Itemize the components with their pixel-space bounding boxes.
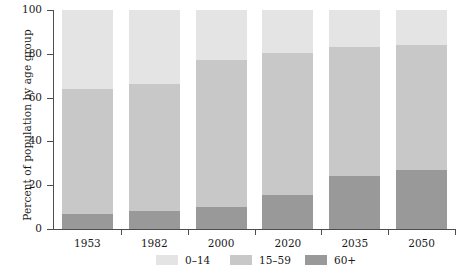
bar-segment-2020-60+ bbox=[262, 195, 313, 229]
bar-segment-1953-0-14 bbox=[62, 10, 113, 89]
bar-segment-1982-15-59 bbox=[129, 84, 180, 211]
x-tick-mark bbox=[188, 230, 189, 235]
bar-2035 bbox=[329, 10, 380, 229]
y-tick-mark bbox=[47, 141, 53, 142]
bar-segment-2035-15-59 bbox=[329, 47, 380, 176]
x-tick-mark bbox=[121, 230, 122, 235]
y-tick-mark bbox=[47, 10, 53, 11]
x-tick-label-1982: 1982 bbox=[124, 238, 184, 249]
y-tick-mark bbox=[47, 229, 53, 230]
legend-item-15-59: 15–59 bbox=[230, 253, 291, 267]
legend-label: 0–14 bbox=[185, 255, 210, 266]
legend-item-0-14: 0–14 bbox=[156, 253, 210, 267]
legend-item-60+: 60+ bbox=[305, 253, 356, 267]
y-tick-label: 0 bbox=[2, 223, 42, 234]
bar-segment-2000-15-59 bbox=[196, 60, 247, 207]
y-tick-mark bbox=[47, 185, 53, 186]
y-tick-label: 80 bbox=[2, 48, 42, 59]
bar-1953 bbox=[62, 10, 113, 229]
bar-2020 bbox=[262, 10, 313, 229]
legend-label: 60+ bbox=[334, 255, 356, 266]
y-tick-mark bbox=[47, 98, 53, 99]
y-tick-label: 40 bbox=[2, 135, 42, 146]
bar-segment-2050-60+ bbox=[396, 170, 447, 229]
chart-legend: 0–1415–5960+ bbox=[0, 253, 460, 267]
bar-1982 bbox=[129, 10, 180, 229]
bar-segment-2035-60+ bbox=[329, 176, 380, 229]
bar-segment-1953-15-59 bbox=[62, 89, 113, 214]
chart-screenshot: Percent of population by age group 02040… bbox=[0, 0, 460, 272]
bar-segment-2050-0-14 bbox=[396, 10, 447, 45]
x-tick-mark bbox=[321, 230, 322, 235]
y-tick-label: 100 bbox=[2, 4, 42, 15]
x-tick-mark bbox=[388, 230, 389, 235]
y-tick-mark bbox=[47, 54, 53, 55]
y-axis-title: Percent of population by age group bbox=[21, 12, 33, 238]
y-tick-label: 60 bbox=[2, 92, 42, 103]
x-tick-label-2035: 2035 bbox=[325, 238, 385, 249]
x-tick-mark bbox=[255, 230, 256, 235]
bar-segment-2020-15-59 bbox=[262, 53, 313, 195]
legend-label: 15–59 bbox=[259, 255, 291, 266]
bar-segment-2000-0-14 bbox=[196, 10, 247, 60]
x-tick-mark bbox=[455, 230, 456, 235]
x-tick-label-1953: 1953 bbox=[57, 238, 117, 249]
y-tick-label: 20 bbox=[2, 179, 42, 190]
legend-swatch-icon bbox=[156, 255, 178, 265]
bar-2050 bbox=[396, 10, 447, 229]
bar-segment-1953-60+ bbox=[62, 214, 113, 229]
x-tick-label-2000: 2000 bbox=[191, 238, 251, 249]
x-tick-label-2050: 2050 bbox=[392, 238, 452, 249]
plot-area bbox=[54, 10, 455, 229]
bar-segment-1982-60+ bbox=[129, 211, 180, 229]
bar-2000 bbox=[196, 10, 247, 229]
legend-swatch-icon bbox=[305, 255, 327, 265]
bar-segment-2000-60+ bbox=[196, 207, 247, 229]
bar-segment-2035-0-14 bbox=[329, 10, 380, 47]
bar-segment-2020-0-14 bbox=[262, 10, 313, 53]
bar-segment-2050-15-59 bbox=[396, 45, 447, 170]
bar-segment-1982-0-14 bbox=[129, 10, 180, 84]
x-tick-label-2020: 2020 bbox=[258, 238, 318, 249]
legend-swatch-icon bbox=[230, 255, 252, 265]
